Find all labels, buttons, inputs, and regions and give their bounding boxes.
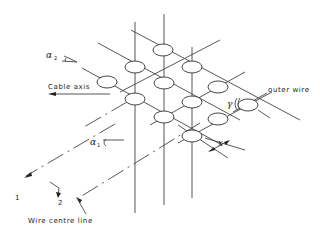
wire-cross-section [154, 77, 174, 89]
wire-centre-line-2 [72, 123, 200, 202]
x-symbol: x [218, 138, 223, 148]
gamma-symbol: γ [227, 99, 233, 109]
wire-cross-section [125, 61, 145, 73]
x-arrow-icon [208, 147, 215, 152]
direction-1-label: 1 [15, 194, 20, 202]
wire-centre-line-1 [26, 124, 115, 176]
wire-cross-section [208, 81, 228, 93]
wire-cross-section [182, 61, 202, 73]
gamma-arc [235, 98, 237, 110]
alpha2-arc [65, 58, 66, 62]
wire-cross-section [153, 44, 173, 56]
alpha1-subscript: 1 [97, 142, 100, 148]
wire-cross-section [208, 113, 228, 125]
diagonal-line [205, 138, 245, 150]
outer-wire [238, 99, 258, 111]
alpha2-subscript: 2 [54, 55, 57, 61]
wire-cross-section [182, 96, 202, 108]
diagonal-line [258, 110, 270, 118]
wire-cross-section [97, 76, 117, 88]
alpha2-symbol: α [46, 50, 52, 60]
wire-centre-line-label: Wire centre line [28, 217, 93, 225]
arrow-1-icon [24, 172, 32, 178]
direction-2-label: 2 [58, 199, 63, 207]
cable-axis-label: Cable axis [48, 83, 90, 91]
alpha1-symbol: α [90, 137, 96, 147]
cable-diagram: Cable axis outer wire Wire centre line α… [0, 0, 320, 237]
outer-wire-label: outer wire [268, 86, 310, 94]
cable-axis-arrow-icon [48, 92, 56, 96]
wire-centre-line [84, 102, 127, 127]
arrow-2-icon [56, 192, 61, 198]
pointer-line [78, 200, 86, 214]
wire-cross-section [125, 93, 145, 105]
wire-cross-section [182, 130, 202, 142]
wire-cross-section [154, 111, 174, 123]
wire-grid [97, 44, 258, 142]
